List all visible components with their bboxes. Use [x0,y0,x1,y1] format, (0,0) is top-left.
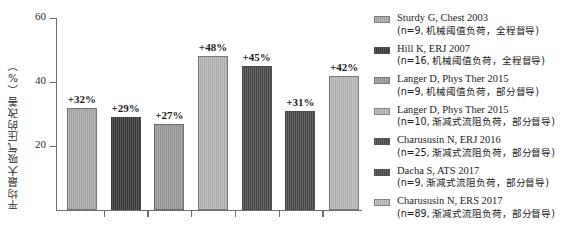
legend-item-6[interactable]: Dacha S, ATS 2017(n=9, 渐减式流阻负荷，部分督导) [374,165,578,190]
legend-detail-3: (n=9, 机械阈值负荷，部分督导) [397,86,578,99]
legend-reference-2: Hill K, ERJ 2007 [397,43,578,56]
legend: Sturdy G, Chest 2003(n=9, 机械阈值负荷，全程督导)Hi… [374,12,578,234]
x-tick-3 [191,210,192,217]
bar-value-label-3: +27% [155,109,183,121]
legend-swatch-icon-2 [374,47,390,54]
bar-value-label-4: +48% [199,41,227,53]
bar-2 [111,117,141,210]
legend-item-7[interactable]: Charususin N, ERS 2017(n=89, 渐减式流阻负荷，部分督… [374,195,578,220]
legend-item-5[interactable]: Charususin N, ERJ 2016(n=25, 渐减式流阻负荷，部分督… [374,134,578,159]
bar-value-label-7: +42% [330,61,358,73]
legend-reference-5: Charususin N, ERJ 2016 [397,134,578,147]
bar-3 [154,124,184,210]
legend-swatch-icon-7 [374,199,390,206]
y-tick-40: 40 [50,82,56,83]
legend-text-3: Langer D, Phys Ther 2015(n=9, 机械阈值负荷，部分督… [397,73,578,98]
bar-value-label-5: +45% [243,51,271,63]
y-axis-title: 平均最大吸气压的改善（%） [2,52,24,217]
bar-value-label-2: +29% [111,102,139,114]
legend-swatch-icon-5 [374,138,390,145]
legend-detail-7: (n=89, 渐减式流阻负荷，部分督导) [397,208,578,221]
legend-detail-2: (n=16, 机械阈值负荷，全程督导) [397,55,578,68]
legend-item-4[interactable]: Langer D, Phys Ther 2015(n=10, 渐减式流阻负荷，部… [374,104,578,129]
legend-swatch-icon-3 [374,77,390,84]
plot-area: 60 40 20 +32%+29%+27%+48%+45%+31%+42% [56,18,362,210]
x-tick-2 [147,210,148,217]
legend-text-1: Sturdy G, Chest 2003(n=9, 机械阈值负荷，全程督导) [397,12,578,37]
legend-swatch-icon-6 [374,169,390,176]
legend-reference-6: Dacha S, ATS 2017 [397,165,578,178]
y-tick-60: 60 [50,18,56,19]
legend-reference-1: Sturdy G, Chest 2003 [397,12,578,25]
x-axis-line [56,210,362,211]
x-tick-5 [279,210,280,217]
legend-item-3[interactable]: Langer D, Phys Ther 2015(n=9, 机械阈值负荷，部分督… [374,73,578,98]
legend-item-2[interactable]: Hill K, ERJ 2007(n=16, 机械阈值负荷，全程督导) [374,43,578,68]
legend-text-7: Charususin N, ERS 2017(n=89, 渐减式流阻负荷，部分督… [397,195,578,220]
legend-reference-4: Langer D, Phys Ther 2015 [397,104,578,117]
legend-text-6: Dacha S, ATS 2017(n=9, 渐减式流阻负荷，部分督导) [397,165,578,190]
bar-value-label-6: +31% [286,96,314,108]
y-axis-line [56,18,57,210]
x-tick-6 [322,210,323,217]
legend-text-5: Charususin N, ERJ 2016(n=25, 渐减式流阻负荷，部分督… [397,134,578,159]
y-tick-label-60: 60 [35,10,46,22]
y-tick-label-20: 20 [35,138,46,150]
bar-4 [198,56,228,210]
legend-item-1[interactable]: Sturdy G, Chest 2003(n=9, 机械阈值负荷，全程督导) [374,12,578,37]
bar-value-label-1: +32% [68,93,96,105]
x-tick-1 [104,210,105,217]
bar-5 [242,66,272,210]
bar-1 [67,108,97,210]
y-tick-20: 20 [50,146,56,147]
bar-7 [329,76,359,210]
legend-text-2: Hill K, ERJ 2007(n=16, 机械阈值负荷，全程督导) [397,43,578,68]
legend-reference-3: Langer D, Phys Ther 2015 [397,73,578,86]
bar-6 [285,111,315,210]
y-tick-label-40: 40 [35,74,46,86]
legend-detail-6: (n=9, 渐减式流阻负荷，部分督导) [397,177,578,190]
legend-swatch-icon-4 [374,108,390,115]
x-tick-4 [235,210,236,217]
bar-chart-figure: 平均最大吸气压的改善（%） 60 40 20 +32%+29%+27%+48%+… [0,0,579,240]
legend-text-4: Langer D, Phys Ther 2015(n=10, 渐减式流阻负荷，部… [397,104,578,129]
legend-swatch-icon-1 [374,16,390,23]
legend-detail-4: (n=10, 渐减式流阻负荷，部分督导) [397,116,578,129]
legend-detail-1: (n=9, 机械阈值负荷，全程督导) [397,25,578,38]
legend-reference-7: Charususin N, ERS 2017 [397,195,578,208]
legend-detail-5: (n=25, 渐减式流阻负荷，部分督导) [397,147,578,160]
